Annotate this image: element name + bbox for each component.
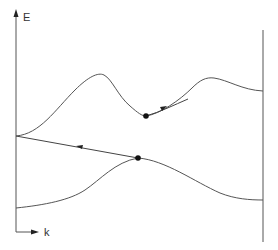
lower-band-maximum-hole <box>135 155 141 161</box>
upper-band <box>16 74 263 136</box>
band-diagram: E k <box>0 0 278 250</box>
k-axis-arrow-icon <box>31 230 39 235</box>
energy-axis-label: E <box>23 11 30 23</box>
upper-band-minimum-electron <box>143 113 149 119</box>
interband-transition-arrow <box>16 136 138 158</box>
energy-axis-arrow-icon <box>14 9 19 17</box>
lower-band <box>16 158 263 208</box>
k-axis-label: k <box>44 226 50 238</box>
